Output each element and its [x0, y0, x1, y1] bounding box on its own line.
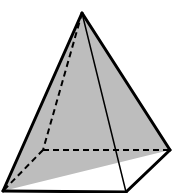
solid-edge-front_left-front_right — [3, 191, 126, 192]
pyramid-diagram — [0, 0, 178, 193]
